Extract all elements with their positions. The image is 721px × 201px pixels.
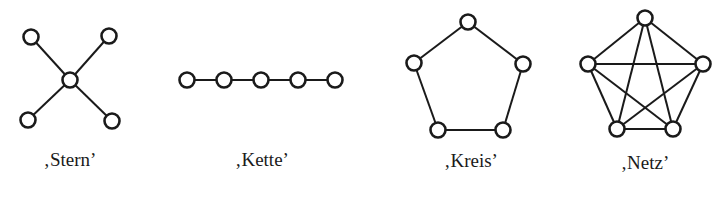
- stern-edge-center-top-right: [70, 36, 109, 80]
- netz-edge-top-left: [588, 18, 645, 64]
- kreis-node-bottom-left: [431, 123, 446, 138]
- network-structures-diagram: ‚Stern’ ‚Kette’ ‚Kreis’ ‚Netz’: [0, 0, 721, 201]
- stern-node-bottom-right: [105, 114, 120, 129]
- network-netz: [581, 11, 711, 137]
- netz-edge-top-bottom-right: [645, 18, 673, 129]
- netz-node-left: [581, 57, 596, 72]
- label-stern: ‚Stern’: [44, 149, 97, 170]
- label-netz: ‚Netz’: [621, 152, 670, 173]
- kreis-node-left: [407, 56, 422, 71]
- netz-edge-top-right: [645, 18, 703, 64]
- kette-node-n3: [254, 73, 269, 88]
- stern-node-top-right: [102, 29, 117, 44]
- netz-node-bottom-right: [666, 122, 681, 137]
- kreis-node-bottom-right: [496, 123, 511, 138]
- network-stern: [21, 29, 120, 129]
- kreis-edge-bottom-left-left: [414, 63, 438, 130]
- stern-edge-center-bottom-right: [70, 80, 112, 121]
- kreis-edge-top-right: [468, 22, 523, 64]
- stern-node-bottom-left: [21, 113, 36, 128]
- netz-node-right: [696, 57, 711, 72]
- netz-edge-bottom-left-left: [588, 64, 617, 129]
- kreis-node-right: [516, 57, 531, 72]
- netz-node-top: [638, 11, 653, 26]
- kreis-edge-right-bottom-right: [503, 64, 523, 130]
- kreis-node-top: [461, 15, 476, 30]
- stern-node-top-left: [24, 30, 39, 45]
- kette-node-n2: [217, 73, 232, 88]
- kreis-edge-left-top: [414, 22, 468, 63]
- label-kreis: ‚Kreis’: [444, 150, 498, 171]
- kette-node-n1: [180, 73, 195, 88]
- network-kreis: [407, 15, 531, 138]
- netz-edge-top-bottom-left: [617, 18, 645, 129]
- kette-node-n4: [291, 73, 306, 88]
- netz-node-bottom-left: [610, 122, 625, 137]
- netz-edge-right-bottom-right: [673, 64, 703, 129]
- label-kette: ‚Kette’: [235, 149, 289, 170]
- kette-node-n5: [328, 73, 343, 88]
- network-kette: [180, 73, 343, 88]
- stern-node-center: [63, 73, 78, 88]
